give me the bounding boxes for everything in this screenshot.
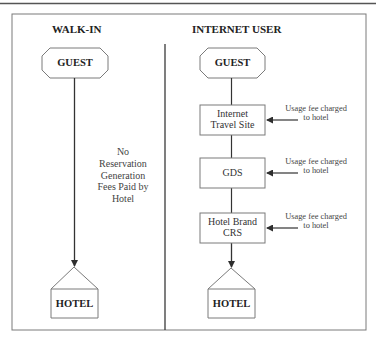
walkin-hotel-label: HOTEL xyxy=(51,298,98,310)
fee-note-line: Usage fee charged xyxy=(280,157,352,166)
walkin-note-line: Reservation xyxy=(84,158,162,170)
walkin-note-line: Hotel xyxy=(84,193,162,205)
walkin-guest-label: GUEST xyxy=(42,57,108,69)
crs-line: CRS xyxy=(200,227,265,238)
gds-label: GDS xyxy=(200,167,265,178)
fee-note-line: to hotel xyxy=(280,166,352,175)
fee-note-line: Usage fee charged xyxy=(280,212,352,221)
walkin-fee-note: No Reservation Generation Fees Paid by H… xyxy=(84,146,162,205)
travel-site-label: Internet Travel Site xyxy=(200,108,265,130)
walkin-heading: WALK-IN xyxy=(52,23,102,35)
fee-note-line: Usage fee charged xyxy=(280,104,352,113)
crs-label: Hotel Brand CRS xyxy=(200,216,265,238)
fee-note-line: to hotel xyxy=(280,221,352,230)
travel-site-line: Travel Site xyxy=(200,119,265,130)
fee-note-crs: Usage fee charged to hotel xyxy=(280,212,352,231)
fee-note-line: to hotel xyxy=(280,113,352,122)
crs-line: Hotel Brand xyxy=(200,216,265,227)
walkin-hotel-node xyxy=(51,267,98,318)
walkin-note-line: Generation xyxy=(84,170,162,182)
internet-hotel-label: HOTEL xyxy=(208,298,255,310)
walkin-note-line: Fees Paid by xyxy=(84,181,162,193)
diagram-canvas: WALK-IN INTERNET USER GUEST HOTEL No Res… xyxy=(0,0,376,344)
gds-line: GDS xyxy=(200,167,265,178)
walkin-note-line: No xyxy=(84,146,162,158)
travel-site-line: Internet xyxy=(200,108,265,119)
fee-note-gds: Usage fee charged to hotel xyxy=(280,157,352,176)
internet-guest-label: GUEST xyxy=(200,57,265,69)
fee-note-travel-site: Usage fee charged to hotel xyxy=(280,104,352,123)
internet-hotel-node xyxy=(208,268,255,318)
internet-user-heading: INTERNET USER xyxy=(192,23,281,35)
